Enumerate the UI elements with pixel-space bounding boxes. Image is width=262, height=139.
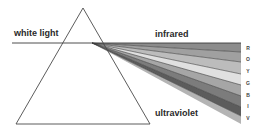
prism: [16, 8, 150, 124]
infrared-label: infrared: [155, 30, 189, 39]
spectrum-letter-r: R: [245, 46, 251, 51]
white-light-label: white light: [14, 29, 59, 38]
spectrum-letter-i: I: [245, 104, 251, 109]
spectrum-letter-o: O: [245, 57, 251, 62]
spectrum-letter-y: Y: [245, 69, 251, 74]
spectrum-letter-g: G: [245, 81, 251, 86]
spectrum-letter-v: V: [245, 116, 251, 121]
prism-diagram: [0, 0, 262, 139]
ultraviolet-label: ultraviolet: [155, 109, 198, 118]
spectrum-letter-b: B: [245, 93, 251, 98]
